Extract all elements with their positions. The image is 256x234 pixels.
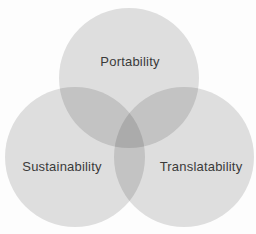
venn-label-translatability: Translatability bbox=[160, 159, 243, 174]
venn-circle-translatability bbox=[114, 87, 254, 227]
venn-diagram: Portability Sustainability Translatabili… bbox=[0, 0, 256, 234]
venn-label-sustainability: Sustainability bbox=[22, 159, 101, 174]
venn-label-portability: Portability bbox=[100, 54, 159, 69]
